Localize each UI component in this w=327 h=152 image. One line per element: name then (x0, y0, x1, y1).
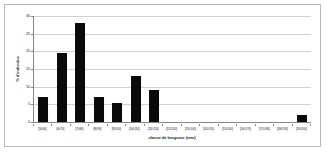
x-tick-mark (218, 124, 219, 126)
bar (75, 23, 85, 122)
x-tick-mark (273, 124, 274, 126)
x-tick-mark (51, 124, 52, 126)
bar-slot (200, 16, 218, 122)
bar-slot (219, 16, 237, 122)
bar-slot (108, 16, 126, 122)
x-tick-mark (199, 124, 200, 126)
x-tick-mark (88, 124, 89, 126)
bar-slot (52, 16, 70, 122)
x-tick-mark (33, 124, 34, 126)
bar-slot (182, 16, 200, 122)
x-tick-label: [50;60] (34, 127, 51, 131)
plot-area: 051015202530 (33, 16, 311, 123)
x-tick-label: [60;70] (52, 127, 69, 131)
x-tick-mark (292, 124, 293, 126)
bar (38, 97, 48, 122)
bar (112, 103, 122, 122)
x-axis-title: classe de longueur (mm) (33, 135, 311, 140)
y-tick-mark (31, 122, 34, 123)
bar-slot (293, 16, 311, 122)
gridline (34, 122, 311, 123)
x-tick-mark (144, 124, 145, 126)
x-tick-mark (236, 124, 237, 126)
x-tick-mark (310, 124, 311, 126)
bar-slot (145, 16, 163, 122)
bar-slot (163, 16, 181, 122)
bars-layer (34, 16, 311, 122)
bar-slot (274, 16, 292, 122)
x-tick-label: [120;130] (163, 127, 180, 131)
bar (94, 97, 104, 122)
x-tick-label: [190;200] (292, 127, 309, 131)
x-tick-label: [70;80] (71, 127, 88, 131)
x-tick-label: [160;170] (237, 127, 254, 131)
y-tick-label: 10 (26, 85, 30, 89)
y-tick-label: 0 (28, 120, 30, 124)
bar (297, 115, 307, 122)
x-tick-mark (181, 124, 182, 126)
y-axis-title-label: % d'individus (15, 57, 19, 83)
chart-frame: % d'individus 051015202530 [50;60][60;70… (4, 4, 321, 147)
x-axis-tick-labels: [50;60][60;70][70;80][80;90][90;100][100… (33, 124, 311, 133)
x-tick-label: [170;180] (255, 127, 272, 131)
y-tick-label: 15 (26, 67, 30, 71)
x-tick-label: [110;120] (145, 127, 162, 131)
bar-slot (71, 16, 89, 122)
x-tick-mark (107, 124, 108, 126)
y-tick-label: 20 (26, 49, 30, 53)
bar-slot (34, 16, 52, 122)
y-tick-label: 5 (28, 102, 30, 106)
x-tick-mark (162, 124, 163, 126)
x-tick-mark (255, 124, 256, 126)
bar-slot (126, 16, 144, 122)
bar-slot (89, 16, 107, 122)
y-tick-label: 25 (26, 32, 30, 36)
bar (57, 53, 67, 122)
x-tick-label: [130;140] (181, 127, 198, 131)
bar-slot (237, 16, 255, 122)
x-tick-label: [100;110] (126, 127, 143, 131)
x-tick-label: [140;150] (200, 127, 217, 131)
x-tick-label: [90;100] (108, 127, 125, 131)
bar-slot (256, 16, 274, 122)
x-tick-label: [180;190] (274, 127, 291, 131)
bar (149, 90, 159, 122)
x-tick-mark (125, 124, 126, 126)
y-tick-label: 30 (26, 14, 30, 18)
bar (131, 76, 141, 122)
x-tick-mark (70, 124, 71, 126)
x-tick-label: [150;160] (218, 127, 235, 131)
y-axis-title: % d'individus (13, 16, 22, 123)
x-tick-label: [80;90] (89, 127, 106, 131)
